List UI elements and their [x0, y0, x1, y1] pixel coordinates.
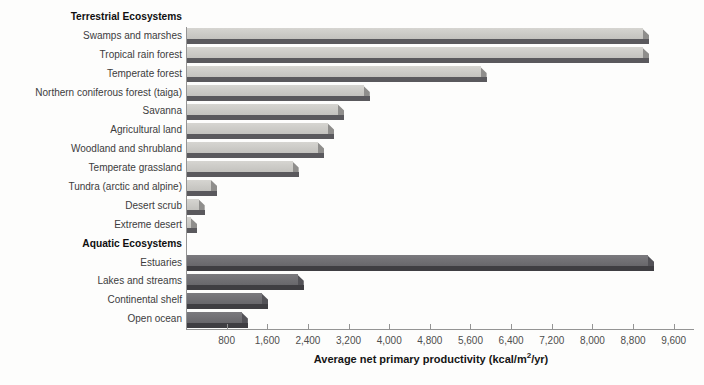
category-label: Savanna — [0, 102, 186, 121]
bar-shadow — [186, 304, 268, 309]
tick-mark — [592, 324, 593, 329]
bar-face — [186, 312, 242, 323]
bar-area — [186, 216, 704, 235]
tick-mark — [552, 324, 553, 329]
bar-shadow — [186, 191, 217, 196]
bar-face — [186, 47, 643, 58]
category-label: Agricultural land — [0, 121, 186, 140]
chart-rows: Terrestrial Ecosystems Swamps and marshe… — [0, 8, 704, 329]
bar-shadow — [186, 266, 654, 271]
chart-row: Savanna — [0, 102, 704, 121]
bar-face — [186, 199, 199, 210]
chart-row: Estuaries — [0, 254, 704, 273]
tick-mark — [267, 324, 268, 329]
tick-mark — [308, 324, 309, 329]
bar — [186, 293, 268, 309]
bar-face — [186, 161, 293, 172]
bar-shadow — [186, 285, 304, 290]
chart-row: Northern coniferous forest (taiga) — [0, 84, 704, 103]
group-header-row: Terrestrial Ecosystems — [0, 8, 704, 27]
bar-shadow — [186, 228, 197, 233]
tick-mark — [633, 324, 634, 329]
chart-row: Agricultural land — [0, 121, 704, 140]
bar-shadow — [186, 77, 487, 82]
bar — [186, 47, 649, 63]
category-label: Lakes and streams — [0, 272, 186, 291]
bar — [186, 66, 487, 82]
bar — [186, 161, 299, 177]
bar-shadow — [186, 96, 370, 101]
bar-area — [186, 310, 704, 329]
category-label: Desert scrub — [0, 197, 186, 216]
bar-face — [186, 255, 648, 266]
chart-row: Woodland and shrubland — [0, 140, 704, 159]
x-axis-title: Average net primary productivity (kcal/m… — [186, 351, 694, 365]
bar-face — [186, 85, 364, 96]
tick-mark — [389, 324, 390, 329]
bar-area — [186, 291, 704, 310]
bar-shadow — [186, 323, 248, 328]
bar — [186, 312, 248, 328]
chart-row: Tropical rain forest — [0, 46, 704, 65]
bar-shadow — [186, 58, 649, 63]
bar — [186, 104, 344, 120]
bar — [186, 180, 217, 196]
bar — [186, 28, 649, 44]
bar-area — [186, 197, 704, 216]
chart-row: Lakes and streams — [0, 272, 704, 291]
tick-mark — [470, 324, 471, 329]
npp-bar-chart: Terrestrial Ecosystems Swamps and marshe… — [0, 0, 704, 385]
chart-row: Open ocean — [0, 310, 704, 329]
bar-face — [186, 274, 298, 285]
chart-row: Continental shelf — [0, 291, 704, 310]
x-axis-title-text: Average net primary productivity (kcal/m — [314, 353, 527, 365]
bar-area — [186, 159, 704, 178]
tick-mark — [674, 324, 675, 329]
chart-row: Temperate forest — [0, 65, 704, 84]
bar-area — [186, 8, 704, 27]
bar — [186, 123, 334, 139]
bar-face — [186, 123, 328, 134]
bar-shadow — [186, 115, 344, 120]
bar-shadow — [186, 134, 334, 139]
tick-mark — [227, 324, 228, 329]
tick-mark — [430, 324, 431, 329]
group-header-row: Aquatic Ecosystems — [0, 235, 704, 254]
bar-area — [186, 65, 704, 84]
bar-area — [186, 46, 704, 65]
category-label: Continental shelf — [0, 291, 186, 310]
bar — [186, 274, 304, 290]
bar-face — [186, 104, 338, 115]
x-axis-title-unit: /yr) — [531, 353, 548, 365]
bar-face — [186, 142, 318, 153]
category-label: Woodland and shrubland — [0, 140, 186, 159]
bar-area — [186, 121, 704, 140]
group-header: Aquatic Ecosystems — [0, 235, 186, 254]
chart-row: Extreme desert — [0, 216, 704, 235]
x-axis-line: 8001,6002,4003,2004,0004,8005,6006,4007,… — [186, 329, 694, 330]
chart-row: Tundra (arctic and alpine) — [0, 178, 704, 197]
tick-mark — [511, 324, 512, 329]
chart-row: Swamps and marshes — [0, 27, 704, 46]
category-label: Estuaries — [0, 254, 186, 273]
bar-area — [186, 102, 704, 121]
category-label: Temperate grassland — [0, 159, 186, 178]
category-label: Temperate forest — [0, 65, 186, 84]
bar-area — [186, 140, 704, 159]
category-label: Open ocean — [0, 310, 186, 329]
bar-shadow — [186, 153, 324, 158]
tick-mark — [349, 324, 350, 329]
bar-area — [186, 27, 704, 46]
bar-area — [186, 84, 704, 103]
bar — [186, 255, 654, 271]
bar-area — [186, 272, 704, 291]
bar-face — [186, 66, 481, 77]
category-label: Northern coniferous forest (taiga) — [0, 84, 186, 103]
chart-row: Desert scrub — [0, 197, 704, 216]
bar-face — [186, 293, 262, 304]
category-label: Extreme desert — [0, 216, 186, 235]
bar — [186, 217, 197, 233]
bar — [186, 85, 370, 101]
bar-shadow — [186, 210, 205, 215]
tick-label: 9,600 — [644, 335, 704, 346]
